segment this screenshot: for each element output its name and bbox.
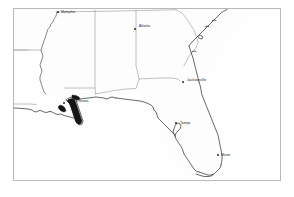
atlanta-dot[interactable] [134, 28, 136, 30]
tampa-dot[interactable] [175, 122, 177, 124]
new-orleans-dot[interactable] [63, 102, 65, 104]
memphis-label: Memphis [61, 10, 76, 14]
miami-label: Miami [221, 153, 231, 157]
delta-finger-west [58, 105, 66, 112]
florida-panhandle-coast [116, 98, 154, 110]
atlanta-label: Atlanta [139, 24, 150, 28]
new-orleans-label: New Orleans [68, 99, 89, 103]
map-figure: Memphis Atlanta Jacksonville New Orleans… [0, 0, 294, 197]
tampa-label: Tampa [180, 121, 191, 125]
texas-louisiana-border [14, 104, 36, 105]
map-canvas[interactable]: Memphis Atlanta Jacksonville New Orleans… [0, 0, 294, 197]
texas-louisiana-coast [14, 108, 50, 113]
jacksonville-dot[interactable] [182, 81, 184, 83]
miami-dot[interactable] [217, 154, 219, 156]
louisiana-bayou-coast [50, 112, 74, 119]
city-marker-miami[interactable]: Miami [217, 153, 231, 157]
jacksonville-label: Jacksonville [187, 78, 206, 82]
landmass-group [14, 9, 252, 172]
memphis-dot[interactable] [57, 11, 59, 13]
mainland-landmass [14, 9, 252, 172]
